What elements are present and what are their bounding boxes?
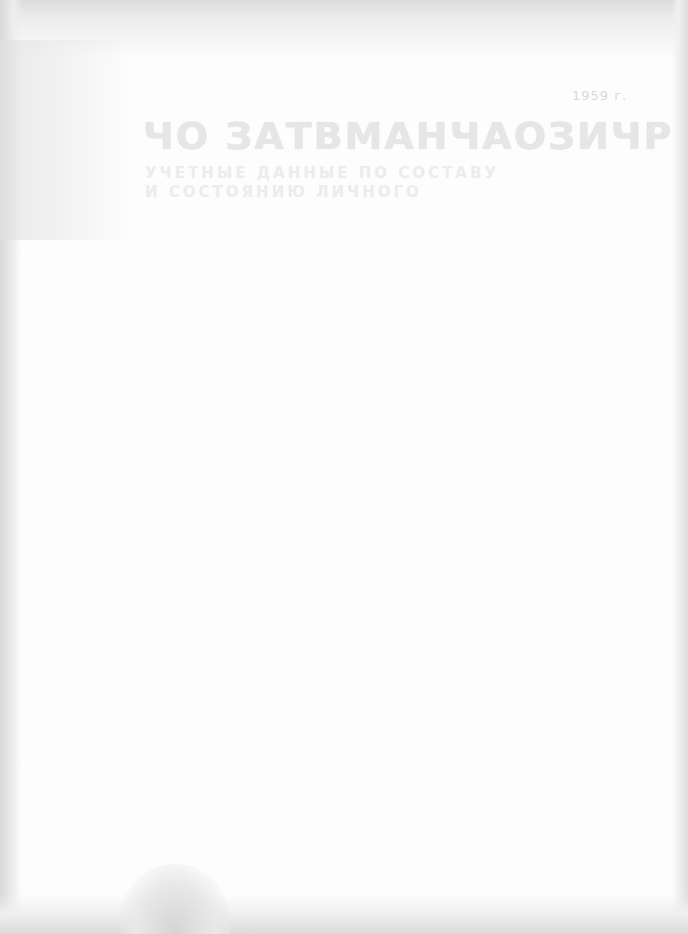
margin-shade <box>0 40 135 240</box>
page-title: ЧО ЗАТВМАНЧАОЗИЧР <box>143 114 673 158</box>
blank-page-body <box>140 230 660 770</box>
scan-smudge <box>120 864 230 934</box>
page-subtitle: УЧЕТНЫЕ ДАННЫЕ ПО СОСТАВУ И СОСТОЯНИЮ ЛИ… <box>145 164 670 202</box>
scan-edge-right <box>672 0 688 934</box>
subtitle-line: УЧЕТНЫЕ ДАННЫЕ ПО СОСТАВУ <box>145 164 670 183</box>
subtitle-line: И СОСТОЯНИЮ ЛИЧНОГО <box>145 183 670 202</box>
scan-edge-bottom <box>0 894 688 934</box>
page-label: 1959 г. <box>572 88 627 103</box>
